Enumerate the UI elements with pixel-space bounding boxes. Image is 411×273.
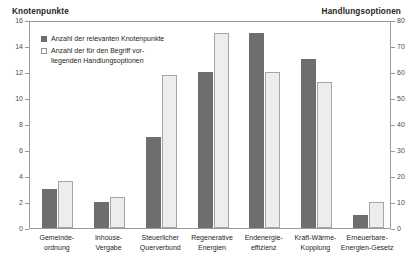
left-axis-tick — [25, 73, 29, 74]
left-axis-tick — [25, 203, 29, 204]
bar-knotenpunkte — [94, 202, 109, 228]
right-axis-tick-label: 40 — [397, 121, 411, 128]
right-axis-tick — [391, 151, 395, 152]
right-axis-tick — [391, 99, 395, 100]
bar-chart: Knotenpunkte Handlungsoptionen 024681012… — [0, 0, 411, 273]
chart-legend: Anzahl der relevanten Knotenpunkte Anzah… — [41, 34, 164, 68]
right-axis-tick-label: 30 — [397, 147, 411, 154]
bar-knotenpunkte — [301, 59, 316, 228]
light-outlined-square-icon — [41, 48, 47, 54]
axis-bottom-line — [29, 228, 391, 229]
left-axis-tick-label: 6 — [1, 147, 23, 154]
left-axis-tick — [25, 229, 29, 230]
right-axis-tick-label: 80 — [397, 17, 411, 24]
category-label: Erneuerbare- Energien-Gesetz — [335, 233, 399, 252]
legend-item: Anzahl der für den Begriff vor- liegende… — [41, 46, 164, 65]
right-axis-tick-label: 20 — [397, 173, 411, 180]
legend-item: Anzahl der relevanten Knotenpunkte — [41, 34, 164, 43]
left-axis-tick — [25, 47, 29, 48]
left-axis-tick — [25, 151, 29, 152]
left-axis-tick-label: 8 — [1, 121, 23, 128]
left-axis-tick-label: 14 — [1, 43, 23, 50]
bar-handlungsoptionen — [317, 82, 332, 228]
left-axis-tick — [25, 99, 29, 100]
bar-knotenpunkte — [353, 215, 368, 228]
bar-knotenpunkte — [42, 189, 57, 228]
dark-filled-square-icon — [41, 36, 47, 42]
bar-group — [353, 22, 384, 228]
left-axis-tick-label: 16 — [1, 17, 23, 24]
right-axis-tick — [391, 47, 395, 48]
bar-group — [301, 22, 332, 228]
bar-handlungsoptionen — [214, 33, 229, 228]
bar-handlungsoptionen — [58, 181, 73, 228]
bar-handlungsoptionen — [265, 72, 280, 228]
right-axis-tick — [391, 229, 395, 230]
left-axis-tick-label: 0 — [1, 225, 23, 232]
bar-handlungsoptionen — [162, 75, 177, 228]
left-axis-tick-label: 2 — [1, 199, 23, 206]
bar-knotenpunkte — [198, 72, 213, 228]
left-axis-tick-label: 12 — [1, 69, 23, 76]
left-axis-tick-label: 10 — [1, 95, 23, 102]
bar-group — [198, 22, 229, 228]
right-axis-tick-label: 50 — [397, 95, 411, 102]
right-axis-tick — [391, 203, 395, 204]
legend-item-label: Anzahl der für den Begriff vor- liegende… — [51, 46, 144, 65]
bar-group — [249, 22, 280, 228]
bar-handlungsoptionen — [110, 197, 125, 228]
left-axis-tick — [25, 177, 29, 178]
right-axis-tick-label: 0 — [397, 225, 411, 232]
right-axis-tick — [391, 21, 395, 22]
right-axis-tick — [391, 125, 395, 126]
right-axis-tick-label: 10 — [397, 199, 411, 206]
right-axis-tick — [391, 73, 395, 74]
legend-item-label: Anzahl der relevanten Knotenpunkte — [51, 34, 164, 43]
left-axis-tick — [25, 125, 29, 126]
right-axis-title: Handlungsoptionen — [322, 7, 401, 16]
right-axis-tick-label: 60 — [397, 69, 411, 76]
right-axis-tick-label: 70 — [397, 43, 411, 50]
left-axis-title: Knotenpunkte — [12, 7, 69, 16]
bar-knotenpunkte — [146, 137, 161, 228]
bar-handlungsoptionen — [369, 202, 384, 228]
left-axis-tick — [25, 21, 29, 22]
bar-knotenpunkte — [249, 33, 264, 228]
right-axis-tick — [391, 177, 395, 178]
left-axis-tick-label: 4 — [1, 173, 23, 180]
